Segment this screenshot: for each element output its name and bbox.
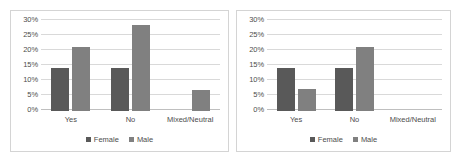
bar-group-mixed-neutral — [160, 19, 220, 111]
legend-label: Male — [361, 135, 377, 144]
legend-swatch-icon — [310, 137, 315, 142]
bar-male — [72, 47, 90, 111]
y-tick-label: 15% — [249, 60, 264, 69]
x-tick-label: Mixed/Neutral — [160, 113, 220, 127]
legend-right: Female Male — [237, 133, 450, 145]
y-tick-label: 30% — [249, 15, 264, 24]
x-axis-labels-left: Yes No Mixed/Neutral — [41, 113, 220, 127]
y-tick-label: 15% — [23, 60, 38, 69]
y-tick-label: 25% — [23, 30, 38, 39]
x-tick-label: Yes — [41, 113, 101, 127]
legend-item-female: Female — [86, 135, 119, 144]
bar-male — [192, 90, 210, 111]
chart-panel-left: 30% 25% 20% 15% 10% 5% 0% — [10, 10, 229, 152]
legend-swatch-icon — [353, 137, 358, 142]
legend-item-male: Male — [353, 135, 377, 144]
y-tick-label: 10% — [249, 75, 264, 84]
charts-row: 30% 25% 20% 15% 10% 5% 0% — [0, 0, 461, 164]
chart-panel-right: 30% 25% 20% 15% 10% 5% 0% — [236, 10, 451, 152]
x-axis-labels-right: Yes No Mixed/Neutral — [267, 113, 442, 127]
y-axis-labels-left: 30% 25% 20% 15% 10% 5% 0% — [11, 11, 41, 151]
bar-female — [111, 68, 129, 111]
bar-female — [51, 68, 69, 111]
legend-left: Female Male — [11, 133, 228, 145]
plot-wrapper-left: 30% 25% 20% 15% 10% 5% 0% — [11, 11, 228, 151]
y-tick-label: 30% — [23, 15, 38, 24]
legend-swatch-icon — [129, 137, 134, 142]
bar-female — [277, 68, 295, 111]
legend-swatch-icon — [86, 137, 91, 142]
legend-item-female: Female — [310, 135, 343, 144]
y-axis-labels-right: 30% 25% 20% 15% 10% 5% 0% — [237, 11, 267, 151]
bar-group-yes — [267, 19, 325, 111]
y-tick-label: 25% — [249, 30, 264, 39]
y-tick-label: 20% — [249, 45, 264, 54]
x-tick-label: No — [325, 113, 383, 127]
bar-groups-left — [41, 19, 220, 111]
bar-group-no — [101, 19, 161, 111]
bar-groups-right — [267, 19, 442, 111]
y-tick-label: 0% — [27, 105, 38, 114]
bar-group-yes — [41, 19, 101, 111]
y-tick-label: 0% — [253, 105, 264, 114]
y-tick-label: 10% — [23, 75, 38, 84]
bar-group-mixed-neutral — [384, 19, 442, 111]
plot-area-left — [41, 19, 220, 111]
bar-male — [356, 47, 374, 111]
legend-label: Female — [94, 135, 119, 144]
bar-group-no — [325, 19, 383, 111]
x-tick-label: Yes — [267, 113, 325, 127]
legend-label: Male — [137, 135, 153, 144]
y-tick-label: 5% — [253, 90, 264, 99]
bar-male — [298, 89, 316, 111]
legend-label: Female — [318, 135, 343, 144]
x-tick-label: Mixed/Neutral — [384, 113, 442, 127]
plot-area-right — [267, 19, 442, 111]
y-tick-label: 20% — [23, 45, 38, 54]
plot-wrapper-right: 30% 25% 20% 15% 10% 5% 0% — [237, 11, 450, 151]
bar-male — [132, 25, 150, 111]
legend-item-male: Male — [129, 135, 153, 144]
x-tick-label: No — [101, 113, 161, 127]
bar-female — [335, 68, 353, 111]
y-tick-label: 5% — [27, 90, 38, 99]
